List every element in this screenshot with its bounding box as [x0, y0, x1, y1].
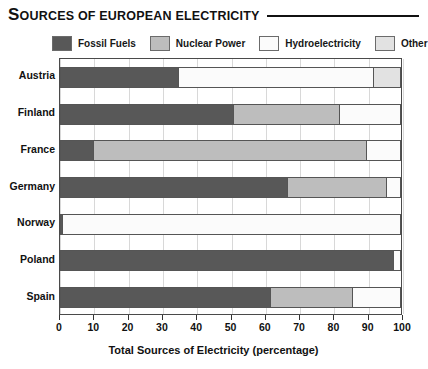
- bar-segment[interactable]: [353, 287, 401, 308]
- legend-item-hydro[interactable]: Hydroelectricity: [259, 36, 361, 51]
- x-tick-0: [59, 315, 60, 320]
- x-tick-30: [162, 315, 163, 320]
- legend-label-nuclear: Nuclear Power: [176, 38, 245, 49]
- bar-segment[interactable]: [94, 140, 367, 161]
- y-axis-label-austria: Austria: [0, 70, 55, 81]
- x-tick-label-60: 60: [259, 321, 271, 333]
- bar-row[interactable]: [60, 214, 401, 235]
- bar-segment[interactable]: [367, 140, 401, 161]
- bar-segment[interactable]: [340, 104, 401, 125]
- bar-segment[interactable]: [60, 177, 288, 198]
- title-drop-cap: S: [8, 5, 20, 24]
- x-tick-50: [231, 315, 232, 320]
- bar-segment[interactable]: [387, 177, 401, 198]
- y-axis-label-france: France: [0, 144, 55, 155]
- legend-swatch-nuclear: [150, 36, 170, 51]
- x-tick-label-70: 70: [293, 321, 305, 333]
- bar-segment[interactable]: [288, 177, 387, 198]
- title-text: OURCES OF EUROPEAN ELECTRICITY: [20, 9, 260, 23]
- bar-segment[interactable]: [374, 67, 401, 88]
- y-axis-label-poland: Poland: [0, 254, 55, 265]
- legend-swatch-hydro: [259, 36, 279, 51]
- legend-item-nuclear[interactable]: Nuclear Power: [150, 36, 245, 51]
- page-title: SOURCES OF EUROPEAN ELECTRICITY: [8, 6, 260, 23]
- legend-swatch-other: [375, 36, 395, 51]
- x-tick-label-80: 80: [328, 321, 340, 333]
- bar-segment[interactable]: [234, 104, 340, 125]
- legend-label-fossil: Fossil Fuels: [78, 38, 136, 49]
- bar-row[interactable]: [60, 104, 401, 125]
- bar-segment[interactable]: [63, 214, 401, 235]
- bar-segment[interactable]: [60, 287, 271, 308]
- x-axis-title: Total Sources of Electricity (percentage…: [0, 344, 427, 356]
- bar-segment[interactable]: [60, 250, 394, 271]
- x-tick-label-20: 20: [122, 321, 134, 333]
- bar-row[interactable]: [60, 67, 401, 88]
- x-axis: 0102030405060708090100: [59, 315, 402, 337]
- x-tick-60: [265, 315, 266, 320]
- chart-legend: Fossil FuelsNuclear PowerHydroelectricit…: [52, 33, 420, 53]
- x-tick-100: [402, 315, 403, 320]
- legend-item-other[interactable]: Other: [375, 36, 428, 51]
- legend-swatch-fossil: [52, 36, 72, 51]
- bar-row[interactable]: [60, 287, 401, 308]
- bar-segment[interactable]: [60, 104, 234, 125]
- legend-label-hydro: Hydroelectricity: [285, 38, 361, 49]
- bars-layer: [60, 59, 401, 314]
- x-tick-90: [368, 315, 369, 320]
- bar-segment[interactable]: [60, 67, 179, 88]
- bar-row[interactable]: [60, 140, 401, 161]
- x-tick-40: [196, 315, 197, 320]
- x-tick-label-0: 0: [56, 321, 62, 333]
- bar-segment[interactable]: [179, 67, 373, 88]
- bar-segment[interactable]: [394, 250, 401, 271]
- x-tick-label-30: 30: [156, 321, 168, 333]
- legend-label-other: Other: [401, 38, 428, 49]
- y-axis-label-germany: Germany: [0, 181, 55, 192]
- bar-row[interactable]: [60, 177, 401, 198]
- title-rule: [267, 15, 419, 17]
- x-tick-label-10: 10: [87, 321, 99, 333]
- x-tick-label-100: 100: [393, 321, 411, 333]
- x-tick-20: [128, 315, 129, 320]
- gridline-100: [403, 59, 404, 314]
- legend-item-fossil[interactable]: Fossil Fuels: [52, 36, 136, 51]
- x-tick-70: [299, 315, 300, 320]
- x-tick-label-50: 50: [225, 321, 237, 333]
- bar-row[interactable]: [60, 250, 401, 271]
- y-axis-labels: AustriaFinlandFranceGermanyNorwayPolandS…: [0, 58, 55, 315]
- y-axis-label-finland: Finland: [0, 107, 55, 118]
- bar-segment[interactable]: [271, 287, 353, 308]
- x-tick-80: [333, 315, 334, 320]
- x-tick-label-90: 90: [362, 321, 374, 333]
- x-tick-label-40: 40: [190, 321, 202, 333]
- bar-segment[interactable]: [60, 140, 94, 161]
- y-axis-label-spain: Spain: [0, 291, 55, 302]
- chart-title-row: SOURCES OF EUROPEAN ELECTRICITY: [8, 6, 419, 28]
- x-tick-10: [93, 315, 94, 320]
- plot-area: [59, 58, 402, 315]
- y-axis-label-norway: Norway: [0, 217, 55, 228]
